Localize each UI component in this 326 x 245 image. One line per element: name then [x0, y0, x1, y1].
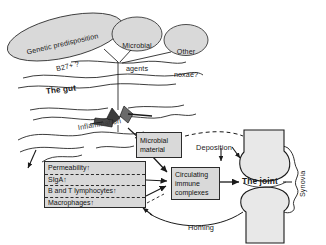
- panel-row-macrophages: Macrophages↑: [48, 199, 142, 206]
- circulating-line3: complexes: [175, 189, 216, 196]
- ellipse-genetic-line2: B27+ ?: [15, 51, 120, 82]
- panel-row-lymphocytes: B and T lymphocytes↑: [48, 187, 142, 194]
- panel-row-siga-text: SIgA: [48, 176, 63, 183]
- microbial-material-line1: Microbial: [140, 137, 178, 144]
- synovia-label: Synovia: [299, 167, 307, 201]
- panel-divider-1: [45, 174, 145, 175]
- arrow-deposition-to-joint: [232, 147, 240, 158]
- circulating-line2: immune: [175, 180, 216, 187]
- box-circulating-immune-complexes: Circulating immune complexes: [171, 167, 220, 200]
- panel-row-siga: SIgA↑: [48, 176, 142, 183]
- panel-row-siga-arrow: ↑: [63, 176, 67, 183]
- panel-divider-2: [45, 185, 145, 186]
- arrows-panel-to-circulating: [146, 180, 167, 196]
- homing-label: Homing: [188, 224, 214, 232]
- joint-illustration: [240, 130, 298, 243]
- arrow-microbial-to-circulating: [152, 156, 167, 172]
- panel-row-permeability: Permeability↑: [48, 164, 142, 171]
- ellipse-noxae-line1: Other: [163, 48, 209, 56]
- panel-row-macrophages-arrow: ↑: [90, 199, 94, 206]
- microbial-material-line2: material: [140, 146, 178, 153]
- joint-label: The joint: [242, 177, 278, 186]
- ellipse-microbial-line1: Microbial: [112, 42, 162, 50]
- box-microbial-material: Microbial material: [136, 132, 182, 158]
- panel-row-macrophages-text: Macrophages: [48, 199, 90, 206]
- ellipse-label-microbial: Microbial agents: [112, 26, 162, 88]
- arrow-gut-to-mucosa-panel: [28, 150, 36, 168]
- box-mucosal-changes: Permeability↑ SIgA↑ B and T lymphocytes↑…: [44, 161, 146, 208]
- dashed-panel-to-circulating: [147, 194, 164, 203]
- panel-row-permeability-arrow: ↑: [87, 164, 91, 171]
- dashed-path-microbial-to-joint: [178, 132, 243, 138]
- ellipse-microbial-line2: agents: [112, 65, 162, 73]
- figure-canvas: Genetic predisposition B27+ ? Microbial …: [0, 0, 326, 245]
- ellipse-label-noxae: Other noxae?: [163, 32, 209, 94]
- arrow-homing-to-panel: [143, 208, 152, 215]
- panel-row-lymphocytes-arrow: ↑: [113, 187, 117, 194]
- ellipse-noxae-line2: noxae?: [163, 71, 209, 79]
- circulating-line1: Circulating: [175, 171, 216, 178]
- deposition-label: Deposition: [196, 144, 232, 152]
- panel-row-lymphocytes-text: B and T lymphocytes: [48, 187, 113, 194]
- panel-row-permeability-text: Permeability: [48, 164, 87, 171]
- panel-divider-3: [45, 197, 145, 198]
